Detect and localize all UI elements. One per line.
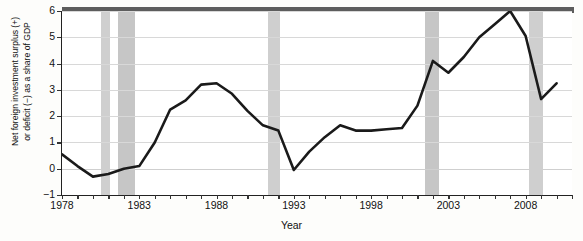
data-line-series: [62, 11, 572, 195]
x-tick-label: 2003: [428, 199, 468, 211]
x-tick-mark: [263, 195, 264, 199]
x-tick-label: 1988: [197, 199, 237, 211]
x-tick-mark: [108, 195, 109, 199]
y-tick-mark: [57, 11, 61, 12]
x-tick-mark: [557, 195, 558, 199]
x-tick-label: 1998: [351, 199, 391, 211]
x-tick-mark: [93, 195, 94, 199]
x-tick-mark: [325, 195, 326, 199]
y-tick-mark: [57, 116, 61, 117]
x-tick-mark: [572, 195, 573, 199]
x-tick-mark: [402, 195, 403, 199]
x-tick-label: 1993: [274, 199, 314, 211]
y-tick-label: 0: [33, 162, 55, 174]
y-tick-mark: [57, 169, 61, 170]
x-axis-title: Year: [0, 219, 583, 231]
plot-area: [62, 11, 572, 195]
y-tick-mark: [57, 64, 61, 65]
x-tick-mark: [417, 195, 418, 199]
y-tick-label: 4: [33, 57, 55, 69]
x-tick-mark: [479, 195, 480, 199]
x-tick-label: 2008: [506, 199, 546, 211]
x-tick-mark: [170, 195, 171, 199]
y-axis-title-text: Net foreign investment surplus (+) or de…: [10, 0, 33, 165]
x-tick-mark: [340, 195, 341, 199]
x-tick-mark: [247, 195, 248, 199]
y-tick-mark: [57, 37, 61, 38]
y-tick-label: 6: [33, 4, 55, 16]
y-tick-label: 3: [33, 83, 55, 95]
y-tick-mark: [57, 142, 61, 143]
x-tick-mark: [186, 195, 187, 199]
y-tick-label: 1: [33, 135, 55, 147]
plot-inner: [62, 11, 572, 195]
y-tick-label: 5: [33, 30, 55, 42]
x-tick-label: 1978: [42, 199, 82, 211]
y-tick-mark: [57, 90, 61, 91]
x-tick-label: 1983: [119, 199, 159, 211]
x-tick-mark: [495, 195, 496, 199]
y-tick-label: 2: [33, 109, 55, 121]
chart-figure: Net foreign investment surplus (+) or de…: [0, 0, 583, 241]
y-tick-mark: [57, 195, 61, 196]
